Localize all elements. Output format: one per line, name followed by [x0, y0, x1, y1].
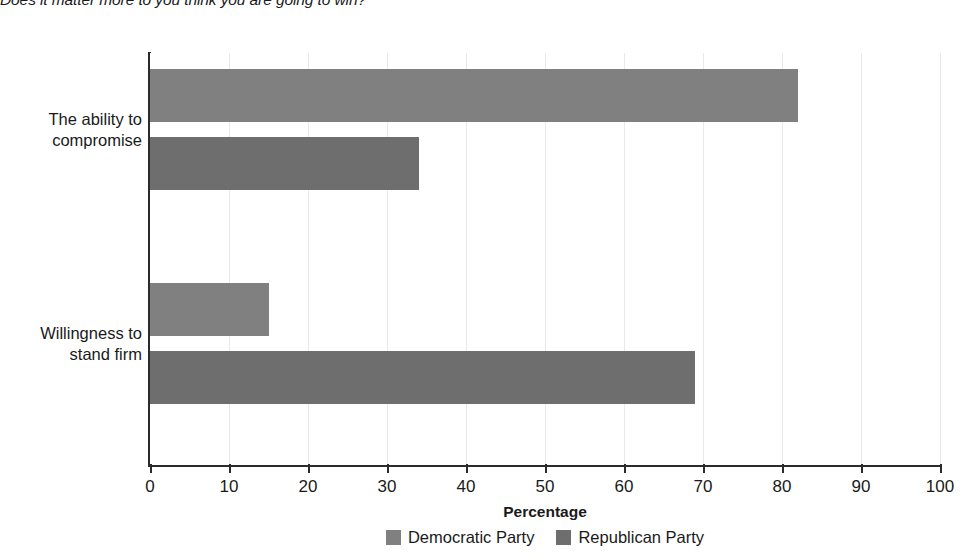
x-axis-tick	[940, 464, 942, 473]
gridline	[940, 53, 941, 465]
legend-swatch-icon	[556, 530, 571, 545]
x-axis-tick	[703, 464, 705, 473]
x-axis-tick-label: 40	[436, 477, 496, 497]
x-axis-tick-label: 90	[831, 477, 891, 497]
x-axis-tick-label: 50	[515, 477, 575, 497]
x-axis-title: Percentage	[150, 503, 940, 521]
legend-swatch-icon	[386, 530, 401, 545]
y-axis-category-label: Willingness tostand firm	[2, 323, 142, 364]
y-axis-category-label-line: stand firm	[2, 344, 142, 365]
bar	[150, 137, 419, 190]
chart-legend: Democratic PartyRepublican Party	[150, 528, 940, 546]
legend-label: Republican Party	[578, 528, 704, 546]
bar	[150, 69, 798, 122]
x-axis-tick	[229, 464, 231, 473]
x-axis-tick	[387, 464, 389, 473]
bar	[150, 283, 269, 336]
legend-label: Democratic Party	[408, 528, 535, 546]
x-axis-tick	[308, 464, 310, 473]
x-axis-tick	[466, 464, 468, 473]
x-axis-tick	[545, 464, 547, 473]
legend-item[interactable]: Republican Party	[556, 528, 704, 546]
x-axis-tick-label: 20	[278, 477, 338, 497]
x-axis-tick	[861, 464, 863, 473]
x-axis-tick	[624, 464, 626, 473]
question-caption: Does it matter more to you think you are…	[0, 0, 520, 10]
x-axis-tick-label: 10	[199, 477, 259, 497]
bar-chart-figure: Does it matter more to you think you are…	[0, 0, 964, 560]
y-axis-category-label-line: compromise	[2, 130, 142, 151]
plot-area	[150, 53, 940, 465]
bar	[150, 351, 695, 404]
x-axis-tick-label: 80	[752, 477, 812, 497]
x-axis-tick-label: 0	[120, 477, 180, 497]
y-axis-category-label: The ability tocompromise	[2, 109, 142, 150]
y-axis-category-label-line: The ability to	[2, 109, 142, 130]
y-axis-category-label-line: Willingness to	[2, 323, 142, 344]
x-axis-tick-label: 70	[673, 477, 733, 497]
x-axis-tick	[782, 464, 784, 473]
x-axis-tick	[150, 464, 152, 473]
legend-item[interactable]: Democratic Party	[386, 528, 535, 546]
x-axis-tick-label: 100	[910, 477, 964, 497]
x-axis-tick-label: 30	[357, 477, 417, 497]
gridline	[861, 53, 862, 465]
x-axis-tick-label: 60	[594, 477, 654, 497]
